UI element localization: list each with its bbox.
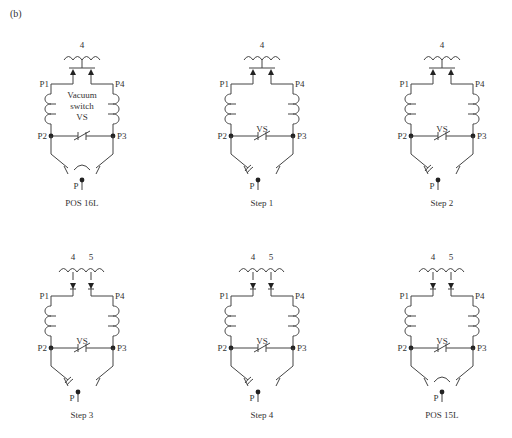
- panel-caption: Step 2: [431, 198, 454, 208]
- label-p4: P4: [295, 291, 305, 301]
- label-p2: P2: [397, 343, 407, 353]
- label-p4: P4: [295, 79, 305, 89]
- panel-step3: 45P1P4VSP2P3PStep 3: [37, 252, 127, 420]
- tap-label-4: 4: [431, 252, 436, 262]
- label-p: P: [249, 393, 254, 403]
- panel-step1: 4P1P4VSP2P3PStep 1: [217, 40, 307, 208]
- vacuum-switch-label: VS: [76, 112, 88, 122]
- reactor-coil-l: [45, 306, 51, 336]
- reactor-coil-r: [293, 306, 299, 336]
- panel-step2: 4P1P4VSP2P3PStep 2: [397, 40, 487, 208]
- panel-pos15l: 45P1P4VSP2P3PPOS 15L: [397, 252, 487, 420]
- contact-arrow-icon: [250, 69, 256, 75]
- tap-winding: [64, 57, 100, 61]
- panel-caption: Step 4: [251, 410, 274, 420]
- tap-label-4: 4: [260, 40, 265, 50]
- reactor-coil-r: [113, 94, 119, 124]
- tap-winding: [59, 269, 104, 273]
- tap-winding: [244, 57, 280, 61]
- tap-winding: [239, 269, 284, 273]
- label-p3: P3: [297, 131, 307, 141]
- label-p3: P3: [117, 131, 127, 141]
- reactor-coil-l: [225, 94, 231, 124]
- vacuum-switch-label: Vacuum: [67, 90, 97, 100]
- vacuum-switch-label: switch: [70, 101, 94, 111]
- panel-caption: Step 1: [251, 198, 274, 208]
- label-p4: P4: [115, 291, 125, 301]
- label-p4: P4: [115, 79, 125, 89]
- tap-label-4: 4: [251, 252, 256, 262]
- label-p3: P3: [117, 343, 127, 353]
- label-p: P: [69, 393, 74, 403]
- label-p2: P2: [397, 131, 407, 141]
- reactor-coil-r: [113, 306, 119, 336]
- label-p3: P3: [477, 131, 487, 141]
- label-p2: P2: [37, 131, 47, 141]
- panel-caption: POS 15L: [425, 410, 458, 420]
- label-p3: P3: [297, 343, 307, 353]
- label-p: P: [433, 393, 438, 403]
- label-p1: P1: [399, 79, 409, 89]
- label-p2: P2: [217, 343, 227, 353]
- selector-contact: [76, 390, 81, 395]
- reactor-coil-r: [293, 94, 299, 124]
- selector-contact: [256, 178, 261, 183]
- label-p1: P1: [219, 79, 229, 89]
- contact-arrow-icon: [268, 69, 274, 75]
- tap-label-4: 4: [80, 40, 85, 50]
- label-p1: P1: [219, 291, 229, 301]
- tap-winding: [424, 57, 460, 61]
- reactor-coil-l: [405, 306, 411, 336]
- selector-contact: [80, 178, 85, 183]
- reactor-coil-r: [473, 94, 479, 124]
- panel-caption: POS 16L: [65, 198, 98, 208]
- reactor-coil-l: [45, 94, 51, 124]
- tap-label-5: 5: [449, 252, 454, 262]
- panel-caption: Step 3: [71, 410, 94, 420]
- reactor-coil-l: [405, 94, 411, 124]
- panel-step4: 45P1P4VSP2P3PStep 4: [217, 252, 307, 420]
- tap-changer-diagram: 4P1P4VacuumswitchVSP2P3PPOS 16L4P1P4VSP2…: [0, 0, 512, 438]
- selector-contact: [436, 178, 441, 183]
- contact-arrow-icon: [448, 69, 454, 75]
- selector-contact: [256, 390, 261, 395]
- label-p1: P1: [39, 291, 49, 301]
- label-p: P: [429, 181, 434, 191]
- label-p2: P2: [37, 343, 47, 353]
- tap-label-5: 5: [89, 252, 94, 262]
- label-p: P: [249, 181, 254, 191]
- label-p: P: [73, 181, 78, 191]
- contact-arrow-icon: [88, 69, 94, 75]
- label-p1: P1: [399, 291, 409, 301]
- tap-label-4: 4: [71, 252, 76, 262]
- label-p4: P4: [475, 79, 485, 89]
- label-p4: P4: [475, 291, 485, 301]
- tap-winding: [419, 269, 464, 273]
- reactor-coil-r: [473, 306, 479, 336]
- reactor-coil-l: [225, 306, 231, 336]
- tap-label-4: 4: [440, 40, 445, 50]
- contact-arrow-icon: [70, 69, 76, 75]
- tap-label-5: 5: [269, 252, 274, 262]
- label-p2: P2: [217, 131, 227, 141]
- panel-pos16l: 4P1P4VacuumswitchVSP2P3PPOS 16L: [37, 40, 127, 208]
- label-p1: P1: [39, 79, 49, 89]
- contact-arrow-icon: [430, 69, 436, 75]
- selector-contact: [440, 390, 445, 395]
- label-p3: P3: [477, 343, 487, 353]
